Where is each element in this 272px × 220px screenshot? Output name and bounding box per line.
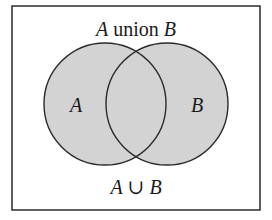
circle-b-label: B bbox=[191, 94, 203, 116]
diagram-title: AunionB bbox=[94, 18, 176, 40]
title-set-a: A bbox=[94, 18, 109, 40]
circle-a-label: A bbox=[68, 94, 83, 116]
title-word: union bbox=[113, 18, 159, 40]
venn-diagram: AunionB A B A∪B bbox=[0, 0, 272, 220]
title-set-b: B bbox=[164, 18, 176, 40]
caption-set-b: B bbox=[149, 176, 161, 198]
union-symbol: ∪ bbox=[128, 176, 145, 198]
union-caption: A∪B bbox=[108, 176, 161, 198]
caption-set-a: A bbox=[108, 176, 123, 198]
